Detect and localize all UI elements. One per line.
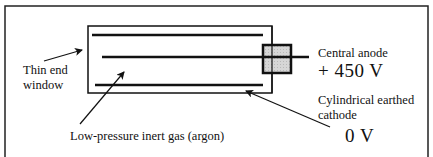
thin-end-window-label-line1: Thin end [23,64,68,77]
insulator-block [263,45,291,73]
cathode-label-line2: cathode [318,109,357,122]
gas-arrow [80,72,124,124]
cathode-label-line1: Cylindrical earthed [318,94,414,107]
thin-window-arrow [44,50,82,61]
cathode-voltage-label: 0 V [345,126,374,145]
central-anode-label: Central anode [318,47,388,60]
anode-voltage-label: + 450 V [318,61,384,80]
thin-end-window-label-line2: window [23,79,63,92]
gas-label: Low-pressure inert gas (argon) [70,130,224,143]
